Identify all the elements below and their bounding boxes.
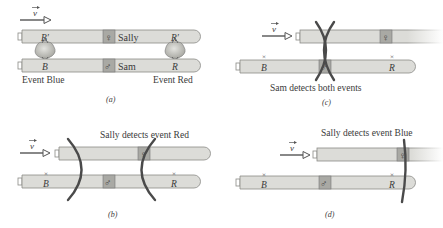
sam-rod: ♂ × B × R [236,171,416,190]
sally-label: Sally [118,32,139,43]
mark-b: B [42,62,48,72]
velocity-arrow: v [280,141,310,159]
sally-rod: ♀ [296,30,443,43]
caption-d: (d) [325,210,335,219]
heading-c: Sam detects both events [270,83,362,93]
caption-a: (a) [106,95,116,104]
mark-r: R [388,63,395,73]
svg-text:×: × [262,171,266,179]
svg-text:×: × [172,170,176,178]
mark-r: R [171,62,178,72]
mark-r: R [170,179,177,189]
male-symbol: ♂ [104,61,112,72]
velocity-label: v [272,24,276,34]
panel-a: v ♀ Sally B′ R′ ♂ Sam [18,6,201,104]
sam-rod: ♂ × B × R [18,170,201,189]
velocity-label: v [290,143,294,153]
svg-text:×: × [390,171,394,179]
sam-rod: ♂ Sam B R [18,59,201,72]
caption-b: (b) [108,210,118,219]
sally-rod: ♀ [313,148,443,161]
panel-b: v ♀ ♂ × B × R Sally detects event Red (b… [18,130,211,219]
mark-b: B [261,180,267,190]
velocity-label: v [33,8,37,18]
mark-b: B [261,63,267,73]
female-symbol: ♀ [382,32,390,43]
svg-text:×: × [262,53,266,61]
male-symbol: ♂ [320,178,328,189]
caption-c: (c) [322,98,331,107]
mark-b: B [43,179,49,189]
event-red-label: Event Red [153,75,193,85]
male-symbol: ♂ [104,177,112,188]
svg-text:×: × [390,53,394,61]
svg-text:×: × [44,170,48,178]
mark-r: R [388,180,395,190]
sam-label: Sam [118,61,136,72]
velocity-arrow: v [20,139,50,157]
panel-d: v ♀ ♂ × B × R Sally detects event Blue (… [236,128,443,219]
velocity-arrow: v [20,6,51,24]
female-symbol: ♀ [105,32,113,43]
velocity-label: v [30,141,34,151]
heading-b: Sally detects event Red [100,130,189,140]
heading-d: Sally detects event Blue [321,128,413,138]
relativity-simultaneity-diagram: v ♀ Sally B′ R′ ♂ Sam [0,0,443,228]
event-blue-label: Event Blue [22,75,64,85]
panel-c: v ♀ ♂ × B × R Sam detects both events (c… [236,22,443,107]
velocity-arrow: v [262,22,292,40]
